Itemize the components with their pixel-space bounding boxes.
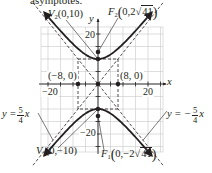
x-tick-20: 20 [142,87,154,97]
focus-f2-label: F2(0,2√41) [108,6,157,20]
point-8 [116,82,121,87]
f2-leader [98,18,118,52]
fraction: 54 [17,106,23,124]
vertex-v1-label: V1(0,−10) [36,146,77,158]
y-tick-20: 20 [84,30,96,40]
asymptote-negative-label: y = −54x [167,106,204,124]
fraction: 54 [192,106,198,124]
asym-neg-leader [143,111,167,140]
x-axis-label: x [167,77,172,88]
point-neg8-label: (−8, 0) [47,71,78,82]
hyperbola-diagram: asymptotes. −20 20 20 −20 x y V2(0,10) F… [0,0,212,173]
point-8-label: (8, 0) [119,71,144,82]
vertex-v2-label: V2(0,10) [48,9,83,21]
asym-pos-leader [38,113,53,140]
x-tick-neg20: −20 [41,87,59,97]
y-axis-label: y [89,14,94,25]
focus-f1-label: F1(0,−2√41) [101,148,156,162]
origin-point [96,82,101,87]
point-neg8 [76,82,81,87]
y-tick-neg20: −20 [79,128,97,138]
f1-leader [98,116,104,150]
asymptote-positive-label: y =54x [2,106,29,124]
